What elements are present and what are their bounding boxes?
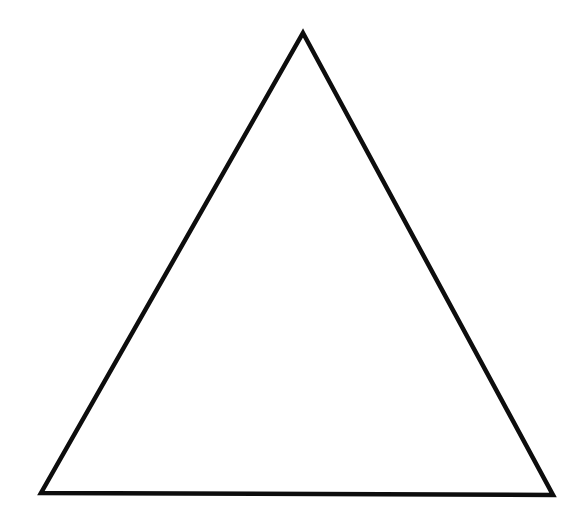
canvas-background (0, 0, 587, 526)
triangle-figure (0, 0, 587, 526)
figure-canvas (0, 0, 587, 526)
